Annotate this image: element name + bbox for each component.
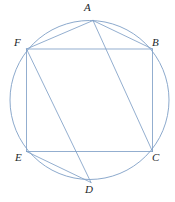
geometry-figure: A B C D E F [0,0,175,202]
segment-AB [93,21,153,50]
vertex-label-A: A [84,2,91,13]
segment-FD [27,49,92,183]
vertex-label-E: E [15,152,22,163]
vertex-label-B: B [152,37,159,48]
segment-AF [27,21,94,50]
vertex-label-C: C [152,152,159,163]
segment-AC [93,21,153,152]
segment-ED [27,152,92,183]
geometry-canvas [0,0,175,202]
circumscribed-circle [10,21,169,180]
vertex-label-D: D [85,184,93,195]
vertex-label-F: F [14,37,21,48]
